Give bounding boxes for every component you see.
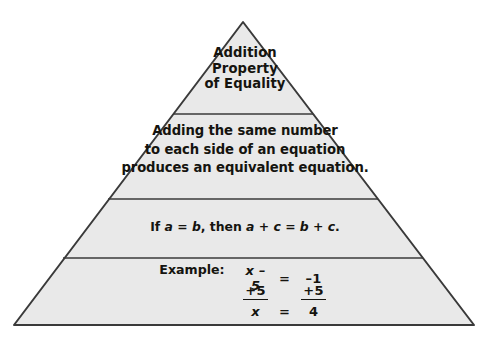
tier-statement: Adding the same number to each side of a… xyxy=(84,122,406,178)
title-line-2: Property xyxy=(150,61,340,77)
symbolic-plus1: + xyxy=(254,219,273,234)
example-row2-rhs: +5 xyxy=(301,284,326,300)
symbolic-eq2: = xyxy=(281,219,300,234)
title-line-3: of Equality xyxy=(150,76,340,92)
symbolic-var-a1: a xyxy=(165,219,173,234)
example-row2-lhs: +5 xyxy=(243,284,268,300)
example-row-operation: +5 +5 xyxy=(239,282,331,302)
example-row3-rhs: 4 xyxy=(309,304,318,319)
tier-example: Example: x – 5 = –1 +5 +5 x = 4 xyxy=(30,263,460,321)
symbolic-plus2: + xyxy=(309,219,328,234)
statement-line-2: to each side of an equation xyxy=(84,141,406,160)
example-label: Example: xyxy=(159,263,224,278)
symbolic-var-b1: b xyxy=(192,219,201,234)
tier-symbolic: If a = b, then a + c = b + c. xyxy=(64,220,426,235)
example-equation-work: x – 5 = –1 +5 +5 x = 4 xyxy=(239,263,331,321)
example-row3-lhs: x xyxy=(251,304,260,319)
title-line-1: Addition xyxy=(150,45,340,61)
tier-title: Addition Property of Equality xyxy=(150,45,340,92)
symbolic-var-c1: c xyxy=(273,219,280,234)
statement-line-3: produces an equivalent equation. xyxy=(84,159,406,178)
example-row-original: x – 5 = –1 xyxy=(239,263,331,282)
symbolic-var-b2: b xyxy=(300,219,309,234)
example-row-solution: x = 4 xyxy=(239,302,331,321)
pyramid-diagram: Addition Property of Equality Adding the… xyxy=(0,0,489,342)
symbolic-then: , then xyxy=(201,219,246,234)
statement-line-1: Adding the same number xyxy=(84,122,406,141)
symbolic-period: . xyxy=(335,219,340,234)
example-row3-equals: = xyxy=(279,304,290,319)
example-block: Example: x – 5 = –1 +5 +5 x = 4 xyxy=(159,263,330,321)
symbolic-var-c2: c xyxy=(328,219,335,234)
symbolic-prefix: If xyxy=(150,219,164,234)
symbolic-eq1: = xyxy=(173,219,192,234)
